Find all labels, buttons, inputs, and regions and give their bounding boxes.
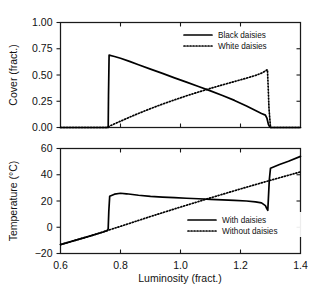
cover-legend-label-white-daisies: White daisies	[218, 42, 267, 51]
temperature-y-axis-title: Temperature (°C)	[7, 161, 19, 242]
temperature-plot-area: −200204060 0.60.81.01.21.4	[35, 142, 308, 270]
temperature-panel: −200204060 0.60.81.01.21.4 Temperature (…	[7, 142, 308, 284]
y-tick-label: 60	[41, 142, 53, 154]
y-tick-label: 40	[41, 168, 53, 180]
temperature-axes-frame	[61, 149, 301, 254]
x-tick-label: 1.0	[173, 259, 188, 271]
temperature-legend: With daisies Without daisies	[182, 212, 302, 237]
x-tick-label: 0.8	[113, 259, 128, 271]
figure-canvas: 0.000.250.500.751.00 Cover (fract.) Blac…	[0, 0, 317, 288]
x-axis-title: Luminosity (fract.)	[138, 272, 221, 284]
y-tick-label: −20	[35, 247, 53, 259]
series-white-daisies	[61, 70, 301, 128]
x-tick-label: 1.4	[293, 259, 308, 271]
series-black-daisies	[61, 55, 301, 127]
daisyworld-figure: 0.000.250.500.751.00 Cover (fract.) Blac…	[0, 0, 317, 288]
y-tick-label: 0	[47, 221, 53, 233]
x-tick-label: 1.2	[233, 259, 248, 271]
cover-series-group	[61, 55, 301, 127]
temperature-x-tick-labels: 0.60.81.01.21.4	[53, 259, 308, 271]
y-tick-label: 20	[41, 195, 53, 207]
y-tick-label: 1.00	[32, 16, 53, 28]
cover-y-tick-labels: 0.000.250.500.751.00	[32, 16, 53, 133]
cover-legend: Black daisies White daisies	[178, 27, 296, 52]
y-tick-label: 0.00	[32, 121, 53, 133]
temperature-tickmarks	[57, 149, 301, 254]
temperature-legend-label-with-daisies: With daisies	[222, 216, 266, 225]
y-tick-label: 0.25	[32, 95, 53, 107]
cover-legend-label-black-daisies: Black daisies	[218, 31, 266, 40]
y-tick-label: 0.75	[32, 42, 53, 54]
temperature-y-tick-labels: −200204060	[35, 142, 53, 259]
x-tick-label: 0.6	[53, 259, 68, 271]
cover-panel: 0.000.250.500.751.00 Cover (fract.) Blac…	[7, 16, 301, 133]
y-tick-label: 0.50	[32, 69, 53, 81]
temperature-legend-label-without-daisies: Without daisies	[222, 227, 278, 236]
cover-y-axis-title: Cover (fract.)	[7, 44, 19, 105]
